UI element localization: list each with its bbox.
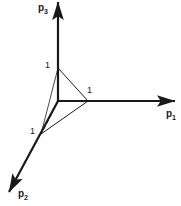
tick-label-p1: 1 [87, 86, 92, 95]
simplex-diagram-figure: p1 p2 p3 1 1 1 [0, 0, 181, 206]
diagram-canvas [0, 0, 181, 206]
axis-label-p3: p3 [38, 3, 48, 15]
axes-group [9, 2, 175, 192]
tick-label-p3: 1 [45, 61, 50, 70]
simplex-edge-p3-p1 [58, 68, 88, 101]
axis-label-p3-subscript: 3 [44, 8, 48, 15]
axis-label-p1: p1 [166, 109, 176, 121]
axis-label-p2: p2 [18, 189, 28, 201]
axis-label-p2-subscript: 2 [24, 194, 28, 201]
axis-label-p1-subscript: 1 [172, 114, 176, 121]
tick-label-p2: 1 [30, 127, 35, 136]
